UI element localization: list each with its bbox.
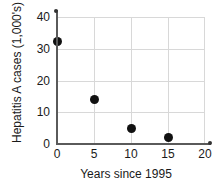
x-axis-tick-labels: 0 5 10 15 20 bbox=[57, 148, 205, 162]
y-tick-label-40: 40 bbox=[24, 11, 50, 23]
data-point-15[interactable] bbox=[164, 133, 173, 142]
x-axis-end-cap bbox=[208, 141, 212, 145]
gridline-x-15 bbox=[168, 17, 169, 144]
x-tick-label-0: 0 bbox=[42, 148, 72, 160]
data-point-10[interactable] bbox=[127, 124, 136, 133]
plot-area bbox=[57, 17, 205, 144]
y-axis-end-cap bbox=[54, 9, 58, 13]
gridline-x-20 bbox=[204, 17, 205, 144]
x-tick-label-20: 20 bbox=[190, 148, 218, 160]
y-axis-tick-labels: 0 10 20 30 40 bbox=[22, 17, 50, 144]
y-axis-line bbox=[56, 10, 58, 145]
x-tick-label-5: 5 bbox=[79, 148, 109, 160]
chart-figure: 0 10 20 30 40 0 5 10 15 20 Hepatitis A c… bbox=[0, 0, 218, 188]
x-tick-label-10: 10 bbox=[116, 148, 146, 160]
x-axis-title: Years since 1995 bbox=[40, 167, 212, 181]
x-axis-line bbox=[56, 143, 211, 145]
y-tick-label-20: 20 bbox=[24, 75, 50, 87]
x-tick-label-15: 15 bbox=[153, 148, 183, 160]
y-tick-label-10: 10 bbox=[24, 106, 50, 118]
y-axis-title: Hepatitis A cases (1,000's) bbox=[10, 3, 24, 143]
gridline-x-5 bbox=[94, 17, 95, 144]
y-tick-label-30: 30 bbox=[24, 43, 50, 55]
data-point-5[interactable] bbox=[90, 95, 99, 104]
